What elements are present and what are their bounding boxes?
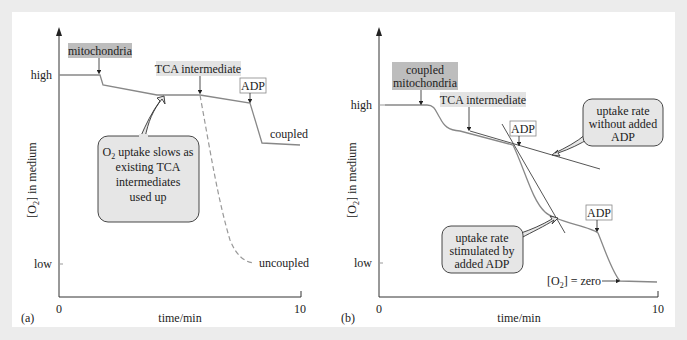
y-tick-low-b: low [354, 256, 372, 270]
figure-svg: high low 0 10 time/min (a) [O2] in mediu… [0, 0, 687, 340]
callout-lower-line-1: uptake rate [456, 231, 509, 245]
panel-letter-a: (a) [21, 311, 34, 325]
adp-label-a: ADP [241, 79, 265, 93]
callout-line-3: intermediates [116, 175, 181, 189]
callout-line-4: used up [130, 190, 167, 204]
callout-upper-line-3: ADP [611, 130, 635, 144]
tangent-without-adp [470, 131, 600, 169]
adp-label-b2: ADP [587, 206, 611, 220]
panel-letter-b: (b) [341, 311, 355, 325]
tca-label-a: TCA intermediate [155, 62, 241, 76]
panel-b: high low 0 10 time/min (b) [O2] in mediu… [341, 27, 664, 325]
panel-a: high low 0 10 time/min (a) [O2] in mediu… [21, 27, 309, 325]
coupled-mitochondria-label-2: mitochondria [393, 76, 458, 90]
x-tick-10: 10 [294, 302, 306, 316]
y-tick-high-b: high [351, 98, 372, 112]
y-tick-high: high [31, 68, 52, 82]
y-axis-label-b: [O2] in medium [345, 142, 361, 218]
callout-lower-line-3: added ADP [455, 257, 510, 271]
y-axis-arrow-icon [56, 27, 62, 36]
callout-line-1: O2 uptake slows as [103, 145, 194, 161]
callout-line-2: existing TCA [116, 160, 181, 174]
x-axis-label: time/min [158, 311, 201, 325]
callout-joint [139, 134, 148, 138]
callout-o2-uptake-slows: O2 uptake slows as existing TCA intermed… [98, 96, 199, 222]
callout-upper-line-1: uptake rate [597, 104, 650, 118]
x-tick-0: 0 [56, 302, 62, 316]
x-tick-10-b: 10 [652, 302, 664, 316]
y-axis-arrow-icon-b [376, 27, 382, 36]
o2-zero-label: [O2] = zero [547, 274, 601, 290]
y-axis-label: [O2] in medium [25, 142, 41, 218]
uncoupled-label: uncoupled [259, 256, 309, 270]
adp-label-b1: ADP [511, 122, 535, 136]
callout-uptake-stimulated: uptake rate stimulated by added ADP [442, 216, 558, 273]
callout-pointer-icon-lower [521, 216, 558, 238]
tangent-stimulated [502, 124, 565, 233]
y-tick-low: low [34, 257, 52, 271]
callout-uptake-without-adp: uptake rate without added ADP [552, 99, 663, 156]
coupled-label: coupled [270, 127, 308, 141]
x-tick-0-b: 0 [376, 302, 382, 316]
mitochondria-label: mitochondria [68, 44, 133, 58]
callout-lower-line-2: stimulated by [450, 244, 515, 258]
coupled-mitochondria-label-1: coupled [406, 63, 444, 77]
x-axis-label-b: time/min [497, 311, 540, 325]
tca-label-b: TCA intermediate [440, 93, 526, 107]
uncoupled-curve [200, 95, 254, 263]
callout-pointer-icon [140, 96, 165, 138]
callout-upper-line-2: without added [589, 117, 657, 131]
